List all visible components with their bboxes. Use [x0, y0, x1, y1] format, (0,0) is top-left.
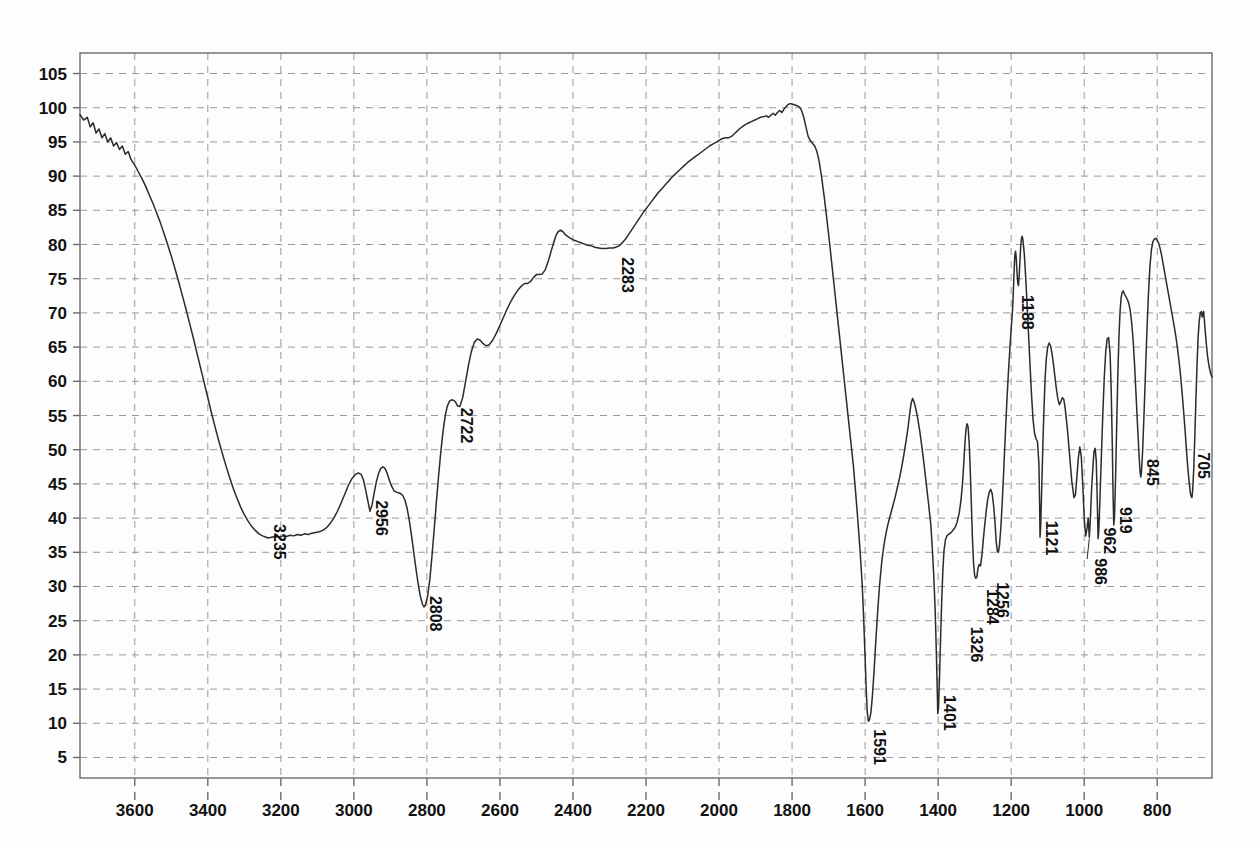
- y-tick-label: 5: [58, 748, 67, 767]
- y-tick-label: 105: [39, 65, 67, 84]
- peak-label-group: 1188: [1019, 295, 1036, 330]
- gridlines: [80, 53, 1212, 778]
- x-tick-label: 2400: [554, 801, 592, 820]
- y-axis-tick-labels: 1051009590858075706560555045403530252015…: [39, 65, 67, 768]
- y-tick-label: 70: [48, 304, 67, 323]
- peak-wavenumber-label: 2722: [458, 408, 475, 444]
- x-tick-label: 1200: [992, 801, 1030, 820]
- y-tick-label: 20: [48, 646, 67, 665]
- x-tick-label: 3400: [189, 801, 227, 820]
- peak-label-group: 962: [1101, 528, 1118, 555]
- peak-label-group: 919: [1117, 507, 1134, 534]
- peak-wavenumber-label: 705: [1195, 452, 1212, 479]
- peak-label-group: 1326: [968, 627, 985, 663]
- y-tick-label: 65: [48, 338, 67, 357]
- peak-label-group: 705: [1195, 452, 1212, 479]
- peak-wavenumber-label: 1591: [871, 729, 888, 765]
- y-tick-label: 90: [48, 167, 67, 186]
- peak-wavenumber-label: 2956: [373, 500, 390, 536]
- y-tick-label: 95: [48, 133, 67, 152]
- peak-label-group: 2956: [373, 500, 390, 536]
- peak-wavenumber-label: 2283: [619, 257, 636, 293]
- y-tick-label: 35: [48, 543, 67, 562]
- peak-wavenumber-label: 1121: [1043, 521, 1060, 556]
- x-tick-label: 3000: [335, 801, 373, 820]
- peak-label-group: 1401: [941, 695, 958, 731]
- y-tick-label: 25: [48, 612, 67, 631]
- x-tick-label: 1400: [919, 801, 957, 820]
- peak-wavenumber-label: 1188: [1019, 295, 1036, 330]
- y-tick-label: 80: [48, 236, 67, 255]
- x-tick-label: 2600: [481, 801, 519, 820]
- x-tick-label: 1000: [1065, 801, 1103, 820]
- peak-wavenumber-label: 919: [1117, 507, 1134, 534]
- x-tick-label: 3200: [262, 801, 300, 820]
- peak-wavenumber-label: 845: [1144, 459, 1161, 486]
- peak-wavenumber-label: 2808: [427, 596, 444, 632]
- x-tick-label: 1800: [773, 801, 811, 820]
- y-tick-label: 15: [48, 680, 67, 699]
- peak-wavenumber-label: 1326: [968, 627, 985, 663]
- x-tick-label: 3600: [116, 801, 154, 820]
- y-tick-label: 30: [48, 577, 67, 596]
- x-tick-label: 2200: [627, 801, 665, 820]
- y-tick-label: 100: [39, 99, 67, 118]
- peak-wavenumber-label: 1401: [941, 695, 958, 731]
- axis-ticks: [73, 74, 1157, 800]
- x-tick-label: 2800: [408, 801, 446, 820]
- y-tick-label: 50: [48, 441, 67, 460]
- peak-label-group: 1591: [871, 729, 888, 765]
- peak-label-group: 1256: [994, 582, 1011, 618]
- x-tick-label: 2000: [700, 801, 738, 820]
- ir-spectrum-page: 1051009590858075706560555045403530252015…: [0, 0, 1258, 845]
- peak-leader-line: [1087, 539, 1089, 560]
- peak-label-group: 1121: [1043, 521, 1060, 556]
- peak-wavenumber-label: 962: [1101, 528, 1118, 555]
- peak-label-group: 2283: [619, 257, 636, 293]
- x-axis-tick-labels: 3600340032003000280026002400220020001800…: [116, 801, 1172, 820]
- y-tick-label: 40: [48, 509, 67, 528]
- peak-label-group: 986: [1092, 558, 1109, 585]
- peak-label-group: 3235: [271, 524, 288, 560]
- x-tick-label: 1600: [846, 801, 884, 820]
- peak-label-group: 2722: [458, 408, 475, 444]
- peak-wavenumber-label: 986: [1092, 558, 1109, 585]
- ir-spectrum-chart: 1051009590858075706560555045403530252015…: [0, 0, 1258, 845]
- y-tick-label: 10: [48, 714, 67, 733]
- x-tick-label: 800: [1143, 801, 1171, 820]
- y-tick-label: 45: [48, 475, 67, 494]
- peak-label-group: 845: [1144, 459, 1161, 486]
- y-tick-label: 85: [48, 201, 67, 220]
- peak-wavenumber-label: 1256: [994, 582, 1011, 618]
- y-tick-label: 60: [48, 372, 67, 391]
- peak-wavenumber-label: 3235: [271, 524, 288, 560]
- y-tick-label: 75: [48, 270, 67, 289]
- peak-label-group: 2808: [427, 596, 444, 632]
- y-tick-label: 55: [48, 407, 67, 426]
